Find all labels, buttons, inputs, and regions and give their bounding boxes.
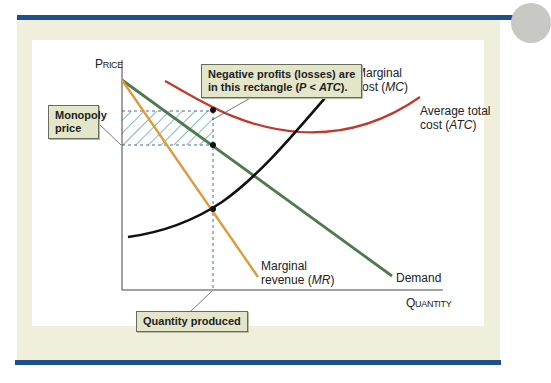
x-axis-label: Quantity [406,296,451,310]
y-axis-label: Price [95,57,123,71]
loss-rectangle [122,111,213,145]
demand-label: Demand [396,271,441,285]
monopoly-price-callout: Monopoly price [48,105,99,139]
mr-mc-intersection-point [210,206,216,212]
quantity-produced-callout: Quantity produced [136,311,248,332]
mr-curve [122,80,258,277]
monopoly-price-leader [97,122,121,145]
demand-curve [122,80,392,276]
atc-at-q-point [210,107,216,113]
losses-callout: Negative profits (losses) are in this re… [201,64,362,98]
quantity-produced-leader [191,291,212,311]
monopoly-price-point [210,142,216,148]
atc-label: Average total cost (ATC) [420,104,491,132]
mc-label: Marginal cost (MC) [356,66,408,94]
mr-label: Marginal revenue (MR) [261,259,334,287]
